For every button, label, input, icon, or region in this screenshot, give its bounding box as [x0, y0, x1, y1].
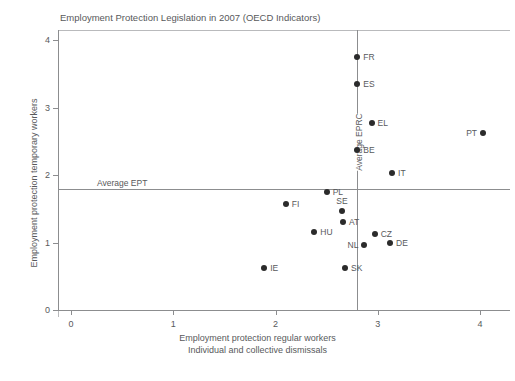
- data-point-de[interactable]: [387, 240, 393, 246]
- average-eprc-label: Average EPRC: [353, 113, 365, 170]
- data-point-pt[interactable]: [480, 130, 486, 136]
- average-ept-line: [58, 189, 510, 190]
- data-point-el[interactable]: [369, 120, 375, 126]
- y-axis-line: [58, 30, 59, 311]
- scatter-chart: Employment Protection Legislation in 200…: [0, 0, 515, 381]
- y-tick-4: [53, 40, 58, 41]
- y-tick-2: [53, 175, 58, 176]
- data-point-label-de: DE: [396, 238, 408, 248]
- x-axis-label-line2: Individual and collective dismissals: [0, 344, 515, 356]
- x-tick-label-3: 3: [375, 319, 380, 329]
- data-point-label-be: BE: [363, 145, 374, 155]
- y-tick-label-2: 2: [40, 170, 50, 180]
- data-point-label-it: IT: [398, 168, 406, 178]
- y-tick-0: [53, 310, 58, 311]
- average-ept-label: Average EPT: [95, 178, 149, 188]
- data-point-label-se: SE: [336, 196, 347, 206]
- data-point-be[interactable]: [354, 147, 360, 153]
- x-axis-label-line1: Employment protection regular workers: [0, 332, 515, 344]
- data-point-fi[interactable]: [283, 201, 289, 207]
- data-point-es[interactable]: [354, 81, 360, 87]
- data-point-label-ie: IE: [270, 263, 278, 273]
- y-tick-1: [53, 243, 58, 244]
- data-point-label-cz: CZ: [381, 229, 392, 239]
- x-axis-label: Employment protection regular workers In…: [0, 332, 515, 356]
- x-tick-2: [276, 310, 277, 315]
- chart-title: Employment Protection Legislation in 200…: [60, 12, 320, 23]
- y-tick-label-1: 1: [40, 238, 50, 248]
- y-tick-label-4: 4: [40, 35, 50, 45]
- data-point-sk[interactable]: [342, 265, 348, 271]
- x-tick-label-2: 2: [273, 319, 278, 329]
- data-point-label-at: AT: [349, 217, 359, 227]
- data-point-label-fi: FI: [292, 199, 300, 209]
- x-tick-label-0: 0: [68, 319, 73, 329]
- x-tick-label-4: 4: [477, 319, 482, 329]
- data-point-label-hu: HU: [320, 227, 332, 237]
- x-tick-0: [71, 310, 72, 315]
- data-point-label-el: EL: [378, 118, 388, 128]
- data-point-ie[interactable]: [261, 265, 267, 271]
- y-tick-3: [53, 108, 58, 109]
- x-tick-label-1: 1: [171, 319, 176, 329]
- data-point-hu[interactable]: [311, 229, 317, 235]
- x-tick-3: [378, 310, 379, 315]
- y-tick-label-3: 3: [40, 103, 50, 113]
- data-point-label-nl: NL: [348, 240, 359, 250]
- data-point-it[interactable]: [389, 170, 395, 176]
- x-tick-4: [480, 310, 481, 315]
- y-axis-label: Employment protection temporary workers: [29, 73, 39, 293]
- data-point-label-fr: FR: [363, 52, 374, 62]
- y-tick-label-0: 0: [40, 305, 50, 315]
- data-point-nl[interactable]: [361, 242, 367, 248]
- data-point-cz[interactable]: [372, 231, 378, 237]
- x-tick-1: [173, 310, 174, 315]
- data-point-pl[interactable]: [324, 189, 330, 195]
- x-axis-line: [58, 310, 510, 311]
- data-point-label-sk: SK: [351, 263, 362, 273]
- data-point-se[interactable]: [339, 208, 345, 214]
- data-point-label-es: ES: [363, 79, 374, 89]
- data-point-fr[interactable]: [354, 54, 360, 60]
- plot-frame: [58, 30, 510, 317]
- data-point-at[interactable]: [340, 219, 346, 225]
- data-point-label-pt: PT: [466, 128, 477, 138]
